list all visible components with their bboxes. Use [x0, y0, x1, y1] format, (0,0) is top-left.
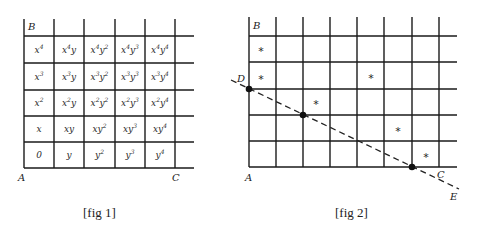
grid-cell-monomial: y2 [94, 148, 104, 160]
grid-cell-monomial: x2y [62, 96, 77, 108]
grid-cell-monomial: x4y [62, 43, 77, 55]
asterisk-marker-icon: * [395, 125, 401, 138]
fig2-label-C: C [437, 169, 445, 180]
fig2-lattice-diagram: ****** B D A C E [fig 2] [231, 17, 459, 220]
grid-cell-monomial: x2y3 [121, 96, 139, 108]
fig1-label-A: A [17, 172, 25, 183]
grid-cell-monomial: x3y4 [151, 70, 169, 82]
fig2-label-E: E [449, 191, 458, 202]
lattice-point-dot-bottom [409, 164, 416, 171]
grid-cell-monomial: y4 [155, 148, 165, 160]
grid-cell-monomial: x3 [35, 70, 44, 82]
asterisk-marker-icon: * [368, 72, 374, 85]
grid-cell-monomial: 0 [36, 150, 42, 160]
grid-cell-monomial: xy [64, 124, 75, 134]
grid-cell-monomial: xy2 [93, 122, 107, 134]
fig1-label-B: B [27, 21, 35, 32]
fig2-star-markers: ****** [258, 45, 429, 164]
grid-cell-monomial: x3y [62, 70, 77, 82]
fig1-caption: [fig 1] [83, 205, 116, 220]
fig2-dashed-line-DE [231, 80, 459, 189]
grid-cell-monomial: x3y2 [91, 70, 109, 82]
asterisk-marker-icon: * [258, 73, 264, 86]
fig1-monomial-grid: x4x4yx4y2x4y3x4y4x3x3yx3y2x3y3x3y4x2x2yx… [17, 19, 194, 220]
grid-cell-monomial: x2y4 [151, 96, 169, 108]
grid-cell-monomial: x2y2 [91, 96, 109, 108]
fig2-label-D: D [236, 73, 245, 84]
grid-cell-monomial: xy4 [153, 122, 167, 134]
grid-cell-monomial: x4 [35, 43, 44, 55]
grid-cell-monomial: x4y4 [151, 43, 169, 55]
fig2-caption: [fig 2] [335, 205, 368, 220]
grid-cell-monomial: x2 [35, 96, 44, 108]
diagram-svg: x4x4yx4y2x4y3x4y4x3x3yx3y2x3y3x3y4x2x2yx… [0, 0, 480, 229]
grid-cell-monomial: xy3 [123, 122, 137, 134]
grid-cell-monomial: x3y3 [121, 70, 139, 82]
fig2-label-A: A [244, 172, 252, 183]
grid-cell-monomial: x [36, 124, 41, 134]
grid-cell-monomial: y [65, 150, 72, 160]
figure-canvas: x4x4yx4y2x4y3x4y4x3x3yx3y2x3y3x3y4x2x2yx… [0, 0, 480, 229]
fig2-gridlines [249, 17, 457, 167]
grid-cell-monomial: y3 [125, 148, 135, 160]
fig2-label-B: B [252, 20, 260, 31]
asterisk-marker-icon: * [423, 151, 429, 164]
lattice-point-dot-mid [300, 112, 307, 119]
lattice-point-dot-D [246, 86, 253, 93]
grid-cell-monomial: x4y3 [121, 43, 139, 55]
fig1-label-C: C [172, 172, 180, 183]
grid-cell-monomial: x4y2 [91, 43, 109, 55]
fig1-gridlines [24, 19, 194, 168]
asterisk-marker-icon: * [258, 45, 264, 58]
asterisk-marker-icon: * [313, 98, 319, 111]
